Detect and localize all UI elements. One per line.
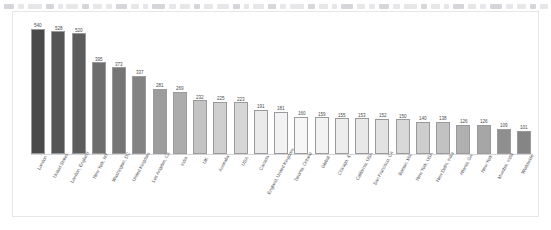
x-axis-tick-label: Chicago, IL [337,153,352,176]
toolbar-ghost-item [244,4,249,9]
bar-rect[interactable] [72,33,86,154]
bar-value-label: 232 [196,94,203,99]
bar-rect[interactable] [234,102,248,154]
bar-rect[interactable] [497,129,511,154]
bar-value-label: 160 [298,111,305,116]
bar-rect[interactable] [355,118,369,154]
bar-rect[interactable] [31,29,45,154]
bar-column[interactable]: 181 [274,18,288,154]
bar-rect[interactable] [456,125,470,154]
x-axis-tick-label: Toronto, Ontario [293,151,313,182]
toolbar-ghost-item [194,4,200,9]
toolbar-ghost-item [404,4,417,9]
bar-value-label: 155 [338,112,345,117]
toolbar-ghost-item [233,4,240,9]
bar-column[interactable]: 138 [436,18,450,154]
bar-column[interactable]: 150 [396,18,410,154]
bar-column[interactable]: 223 [234,18,248,154]
bar-column[interactable]: 159 [315,18,329,154]
bar-column[interactable]: 520 [72,18,86,154]
x-axis-tick-label: London [36,155,48,171]
bar-rect[interactable] [153,89,167,154]
bar-rect[interactable] [477,125,491,154]
toolbar-ghost-item [18,4,24,9]
toolbar-ghost-item [152,4,165,9]
bar-column[interactable]: 540 [31,18,45,154]
bar-rect[interactable] [213,102,227,154]
bar-column[interactable]: 232 [193,18,207,154]
bar-rect[interactable] [173,92,187,154]
bar-rect[interactable] [436,122,450,154]
bar-rect[interactable] [132,76,146,154]
bar-value-label: 395 [95,56,102,61]
bar-value-label: 373 [115,62,122,67]
toolbar-ghost-item [58,4,63,9]
x-axis-tick-label: London, England [70,151,91,184]
bar-column[interactable]: 191 [254,18,268,154]
x-axis-tick-label: New York, NY [92,152,110,179]
bar-column[interactable]: 126 [477,18,491,154]
bar-value-label: 223 [237,96,244,101]
x-axis-tick-label: New York [480,154,494,173]
bar-rect[interactable] [193,100,207,154]
bar-rect[interactable] [315,117,329,154]
bar-column[interactable]: 160 [294,18,308,154]
bar-column[interactable]: 395 [92,18,106,154]
bar-rect[interactable] [254,110,268,154]
bar-column[interactable]: 281 [153,18,167,154]
bar-column[interactable]: 140 [416,18,430,154]
bar-rect[interactable] [112,67,126,154]
bar-value-label: 191 [257,104,264,109]
toolbar-ghost-item [131,4,139,9]
x-axis-tick-label: San Francisco, CA [372,150,394,186]
bar-value-label: 540 [34,23,41,28]
bar-rect[interactable] [92,62,106,154]
bar-column[interactable]: 225 [213,18,227,154]
bar-value-label: 337 [136,70,143,75]
toolbar-ghost-item [369,4,375,9]
toolbar-ghost-item [204,4,213,9]
bar-column[interactable]: 109 [497,18,511,154]
bar-column[interactable]: 337 [132,18,146,154]
toolbar-ghost-item [319,4,328,9]
chart-card: 5405285203953733372812692322252231911811… [12,11,539,217]
bar-column[interactable]: 373 [112,18,126,154]
toolbar-ghost-item [28,4,42,9]
bar-rect[interactable] [274,112,288,154]
bar-column[interactable]: 152 [375,18,389,154]
toolbar-ghost-item [93,4,102,9]
toolbar-ghost-item [4,4,14,9]
toolbar-ghost-item [490,4,502,9]
bar-value-label: 159 [318,111,325,116]
toolbar-ghost-item [82,4,89,9]
bar-rect[interactable] [51,31,65,154]
toolbar-ghost-item [217,4,229,9]
x-axis-tick-label: New Delhi, India [435,151,455,183]
toolbar-ghost-item [357,4,365,9]
bar-rect[interactable] [294,117,308,154]
bar-value-label: 153 [358,113,365,118]
bar-rect[interactable] [375,119,389,154]
bar-rect[interactable] [335,118,349,154]
toolbar-ghost-item [290,4,304,9]
toolbar-ghost-item [116,4,127,9]
toolbar-ghost-item [253,4,264,9]
bar-column[interactable]: 101 [517,18,531,154]
bar-value-label: 126 [480,119,487,124]
x-axis-tick-label: Los Angeles, CA [151,151,171,183]
bar-rect[interactable] [416,122,430,155]
toolbar-ghost-item [393,4,400,9]
bar-rect[interactable] [517,131,531,154]
bar-column[interactable]: 269 [173,18,187,154]
x-axis-tick-label: USA [241,156,250,167]
bar-value-label: 528 [55,26,62,31]
bar-column[interactable]: 528 [51,18,65,154]
bar-column[interactable]: 126 [456,18,470,154]
toolbar-ghost-item [332,4,337,9]
toolbar-ghost-item [444,4,449,9]
x-axis-labels: LondonUnited StatesLondon, EnglandNew Yo… [31,156,533,214]
bar-column[interactable]: 155 [335,18,349,154]
bar-column[interactable]: 153 [355,18,369,154]
x-axis-tick-label: California, USA [354,152,373,182]
bar-rect[interactable] [396,119,410,154]
